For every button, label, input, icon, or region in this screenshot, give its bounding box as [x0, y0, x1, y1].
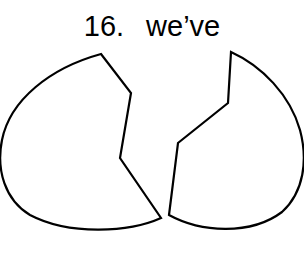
puzzle-card: 16.we’ve — [0, 0, 304, 257]
left-fragment-shape — [0, 54, 161, 230]
right-fragment-shape — [169, 52, 304, 229]
shape-fragments — [0, 0, 304, 257]
